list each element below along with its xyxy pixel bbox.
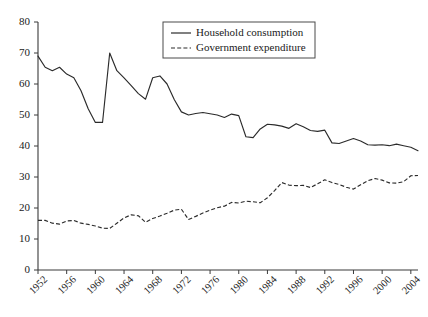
x-tick-label: 1952 xyxy=(27,274,50,297)
x-tick-label: 1992 xyxy=(314,274,337,297)
y-axis-ticks: 01020304050607080 xyxy=(19,15,38,275)
x-tick-label: 1984 xyxy=(256,273,279,296)
x-tick-label: 1960 xyxy=(84,274,107,297)
series-line-0 xyxy=(38,53,418,151)
y-tick-label: 30 xyxy=(19,170,31,182)
x-tick-label: 1968 xyxy=(142,274,165,297)
line-chart: 01020304050607080 1952195619601964196819… xyxy=(0,0,428,317)
y-tick-label: 20 xyxy=(19,201,31,213)
x-tick-label: 1988 xyxy=(285,274,308,297)
x-tick-label: 1980 xyxy=(228,274,251,297)
y-tick-label: 80 xyxy=(19,15,31,27)
chart-legend: Household consumptionGovernment expendit… xyxy=(163,22,315,58)
x-tick-label: 1956 xyxy=(55,274,78,297)
x-tick-label: 2000 xyxy=(371,274,394,297)
y-tick-label: 70 xyxy=(19,46,31,58)
y-tick-label: 50 xyxy=(19,108,31,120)
y-tick-label: 0 xyxy=(25,263,31,275)
legend-label-0: Household consumption xyxy=(196,26,304,38)
y-tick-label: 10 xyxy=(19,232,31,244)
legend-label-1: Government expenditure xyxy=(196,41,306,53)
y-tick-label: 40 xyxy=(19,139,31,151)
x-tick-label: 1972 xyxy=(170,274,193,297)
x-tick-label: 2004 xyxy=(400,273,423,296)
x-tick-label: 1964 xyxy=(113,273,136,296)
x-tick-label: 1976 xyxy=(199,274,222,297)
x-tick-label: 1996 xyxy=(342,274,365,297)
chart-container: 01020304050607080 1952195619601964196819… xyxy=(0,0,428,317)
series-line-1 xyxy=(38,175,418,228)
x-axis-ticks: 1952195619601964196819721976198019841988… xyxy=(27,270,423,296)
data-series-group xyxy=(38,53,418,228)
y-tick-label: 60 xyxy=(19,77,31,89)
